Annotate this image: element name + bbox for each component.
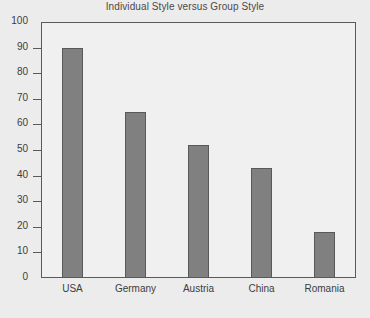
bar: [251, 168, 272, 278]
y-axis-tick-label: 30: [17, 194, 28, 206]
y-axis-tick-mark: [33, 73, 41, 74]
y-axis-tick-mark: [33, 48, 41, 49]
y-axis-tick-mark: [33, 227, 41, 228]
x-axis-tick-label: Austria: [183, 282, 214, 295]
y-axis-tick-label: 50: [17, 143, 28, 155]
y-axis-tick-mark: [33, 252, 41, 253]
x-axis-tick-label: USA: [62, 282, 83, 295]
bars-layer: [41, 22, 356, 278]
y-axis-tick-label: 100: [11, 15, 28, 27]
y-axis-tick-label: 60: [17, 117, 28, 129]
y-axis-tick-label: 90: [17, 41, 28, 53]
y-axis-tick-label: 80: [17, 66, 28, 78]
x-axis-tick-label: Romania: [304, 282, 344, 295]
bar: [188, 145, 209, 278]
y-axis-tick-mark: [33, 176, 41, 177]
y-axis-tick-label: 70: [17, 92, 28, 104]
bar: [314, 232, 335, 278]
bar-chart: Individual Style versus Group Style 0102…: [0, 0, 370, 318]
y-axis-tick-mark: [33, 201, 41, 202]
x-axis: USAGermanyAustriaChinaRomania: [41, 282, 356, 302]
y-axis-tick-label: 40: [17, 169, 28, 181]
bar: [62, 48, 83, 278]
x-axis-tick-label: China: [248, 282, 274, 295]
y-axis-tick-mark: [33, 124, 41, 125]
y-axis-tick-mark: [33, 99, 41, 100]
x-axis-tick-label: Germany: [115, 282, 156, 295]
y-axis-tick-label: 20: [17, 220, 28, 232]
y-axis-tick-label: 10: [17, 245, 28, 257]
bar: [125, 112, 146, 278]
chart-title: Individual Style versus Group Style: [0, 0, 370, 14]
y-axis-tick-mark: [33, 150, 41, 151]
y-axis: 0102030405060708090100: [0, 0, 41, 318]
y-axis-tick-label: 0: [22, 271, 28, 283]
